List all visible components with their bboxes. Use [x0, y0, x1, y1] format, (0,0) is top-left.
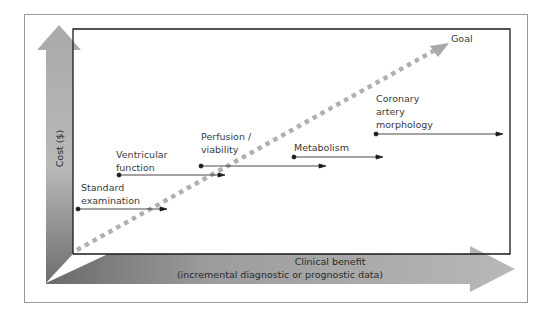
x-axis-label-line2: (incremental diagnostic or prognostic da… [130, 268, 430, 281]
item-label-perfusion-viability: Perfusion / viability [201, 130, 251, 156]
goal-label: Goal [451, 32, 473, 45]
x-axis-label-line1: Clinical benefit [180, 255, 480, 268]
item-label-ventricular-function: Ventricular function [116, 148, 168, 174]
cost-benefit-diagram: Cost ($) Clinical benefit (incremental d… [0, 0, 541, 313]
item-label-standard-examination: Standard examination [81, 181, 140, 207]
item-label-metabolism: Metabolism [294, 141, 349, 154]
y-axis-label: Cost ($) [54, 128, 65, 170]
item-label-coronary-artery-morphology: Coronary artery morphology [376, 92, 433, 131]
